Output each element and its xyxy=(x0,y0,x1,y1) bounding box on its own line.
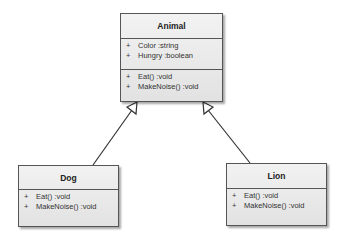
class-name: Animal xyxy=(121,14,222,39)
operation-row: +MakeNoise() :void xyxy=(121,82,222,92)
visibility-public: + xyxy=(24,192,28,202)
visibility-public: + xyxy=(24,202,28,212)
attributes-section: +Color :string +Hungry :boolean xyxy=(121,39,222,70)
visibility-public: + xyxy=(232,201,236,211)
lion-generalization-line xyxy=(208,110,250,163)
class-name: Dog xyxy=(19,166,118,190)
visibility-public: + xyxy=(232,191,236,201)
operation-make-noise: MakeNoise() :void xyxy=(138,82,198,92)
operation-make-noise: MakeNoise() :void xyxy=(244,201,304,211)
operation-row: +Eat() :void xyxy=(227,191,326,201)
dog-generalization-line xyxy=(93,110,132,165)
class-lion[interactable]: Lion +Eat() :void +MakeNoise() :void xyxy=(226,163,327,226)
operation-make-noise: MakeNoise() :void xyxy=(36,202,96,212)
operations-section: +Eat() :void +MakeNoise() :void xyxy=(227,189,326,213)
operations-section: +Eat() :void +MakeNoise() :void xyxy=(19,190,118,214)
visibility-public: + xyxy=(126,41,130,51)
attribute-row: +Hungry :boolean xyxy=(121,51,222,61)
visibility-public: + xyxy=(126,82,130,92)
operation-eat: Eat() :void xyxy=(138,72,172,82)
operation-row: +MakeNoise() :void xyxy=(227,201,326,211)
attribute-color: Color :string xyxy=(138,41,178,51)
operation-row: +MakeNoise() :void xyxy=(19,202,118,212)
attribute-hungry: Hungry :boolean xyxy=(138,51,193,61)
operations-section: +Eat() :void +MakeNoise() :void xyxy=(121,70,222,94)
operation-eat: Eat() :void xyxy=(244,191,278,201)
visibility-public: + xyxy=(126,51,130,61)
class-dog[interactable]: Dog +Eat() :void +MakeNoise() :void xyxy=(18,165,119,227)
class-name: Lion xyxy=(227,164,326,189)
visibility-public: + xyxy=(126,72,130,82)
operation-row: +Eat() :void xyxy=(121,72,222,82)
generalization-arrowhead-icon xyxy=(127,102,137,114)
attribute-row: +Color :string xyxy=(121,41,222,51)
operation-row: +Eat() :void xyxy=(19,192,118,202)
generalization-arrowhead-icon xyxy=(203,102,213,114)
operation-eat: Eat() :void xyxy=(36,192,70,202)
class-animal[interactable]: Animal +Color :string +Hungry :boolean +… xyxy=(120,13,223,102)
